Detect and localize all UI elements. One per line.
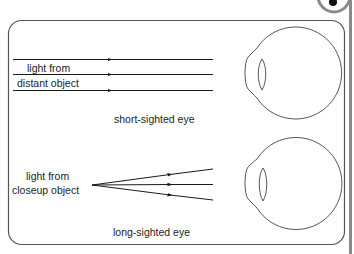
lens — [258, 59, 266, 90]
ray-label-line1: light from — [26, 170, 69, 182]
ray — [92, 175, 170, 186]
ray-label-line2: closeup object — [12, 184, 79, 196]
eyeball-outline — [245, 27, 342, 119]
eye-long-sighted — [245, 138, 342, 230]
caption-long-sighted: long-sighted eye — [113, 226, 190, 238]
side-bar — [349, 0, 352, 254]
eye-badge-icon — [318, 0, 350, 12]
ray-label-line2: distant object — [17, 77, 79, 89]
caption-short-sighted: short-sighted eye — [114, 113, 195, 125]
eye-diagram — [0, 0, 354, 254]
ray — [92, 185, 170, 186]
ray — [170, 195, 213, 200]
lens — [259, 168, 267, 201]
diverging-rays — [92, 169, 213, 200]
ray — [92, 185, 170, 195]
eye-short-sighted — [245, 27, 342, 119]
ray — [170, 169, 213, 175]
ray-label-line1: light from — [27, 62, 70, 74]
diagram-frame — [9, 21, 345, 245]
